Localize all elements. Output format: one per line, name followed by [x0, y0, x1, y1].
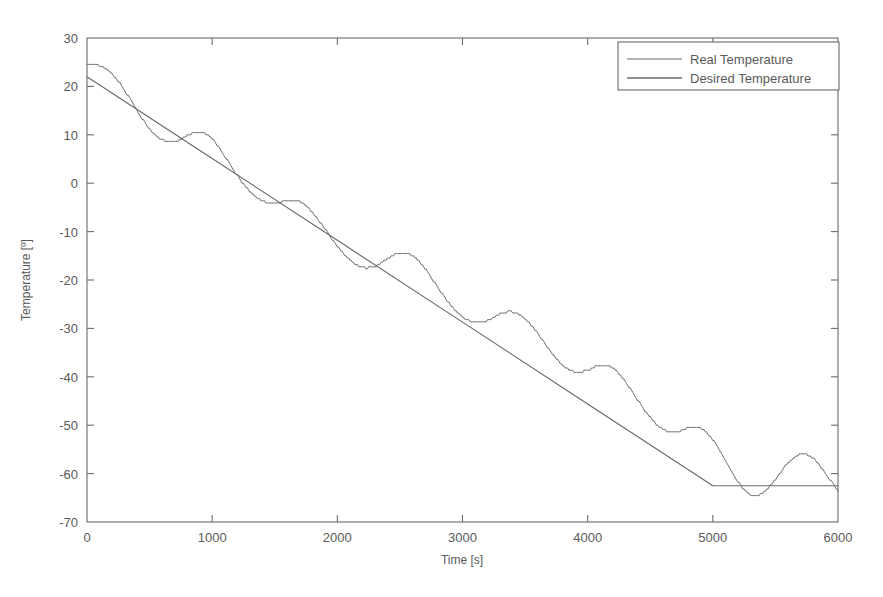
y-axis-tick-labels: 3020100-10-20-30-40-50-60-70 — [59, 31, 78, 530]
series-real-temperature — [87, 64, 838, 495]
x-tick-label: 1000 — [198, 530, 227, 545]
y-tick-label: 30 — [64, 31, 78, 46]
x-tick-label: 5000 — [698, 530, 727, 545]
figure-canvas: 0100020003000400050006000 3020100-10-20-… — [0, 0, 883, 597]
x-tick-label: 3000 — [448, 530, 477, 545]
legend-label-desired-temperature: Desired Temperature — [690, 71, 811, 86]
y-tick-label: -70 — [59, 515, 78, 530]
x-tick-label: 4000 — [573, 530, 602, 545]
x-tick-label: 2000 — [323, 530, 352, 545]
x-axis-tick-labels: 0100020003000400050006000 — [83, 530, 852, 545]
y-tick-label: -60 — [59, 467, 78, 482]
y-tick-label: -20 — [59, 273, 78, 288]
series-desired-temperature — [87, 77, 838, 486]
legend-label-real-temperature: Real Temperature — [690, 52, 793, 67]
y-tick-label: 20 — [64, 79, 78, 94]
legend[interactable]: Real Temperature Desired Temperature — [618, 42, 839, 90]
x-tick-label: 0 — [83, 530, 90, 545]
x-tick-label: 6000 — [824, 530, 853, 545]
y-tick-label: -10 — [59, 225, 78, 240]
y-tick-label: -40 — [59, 370, 78, 385]
plot-frame — [87, 38, 838, 522]
x-axis-ticks — [212, 38, 713, 522]
y-axis-title: Temperature [º] — [19, 239, 33, 321]
chart-svg[interactable]: 0100020003000400050006000 3020100-10-20-… — [0, 0, 883, 597]
x-axis-title: Time [s] — [441, 553, 483, 567]
y-tick-label: -50 — [59, 418, 78, 433]
y-tick-label: -30 — [59, 321, 78, 336]
y-tick-label: 0 — [71, 176, 78, 191]
y-axis-ticks — [87, 86, 838, 473]
y-tick-label: 10 — [64, 128, 78, 143]
